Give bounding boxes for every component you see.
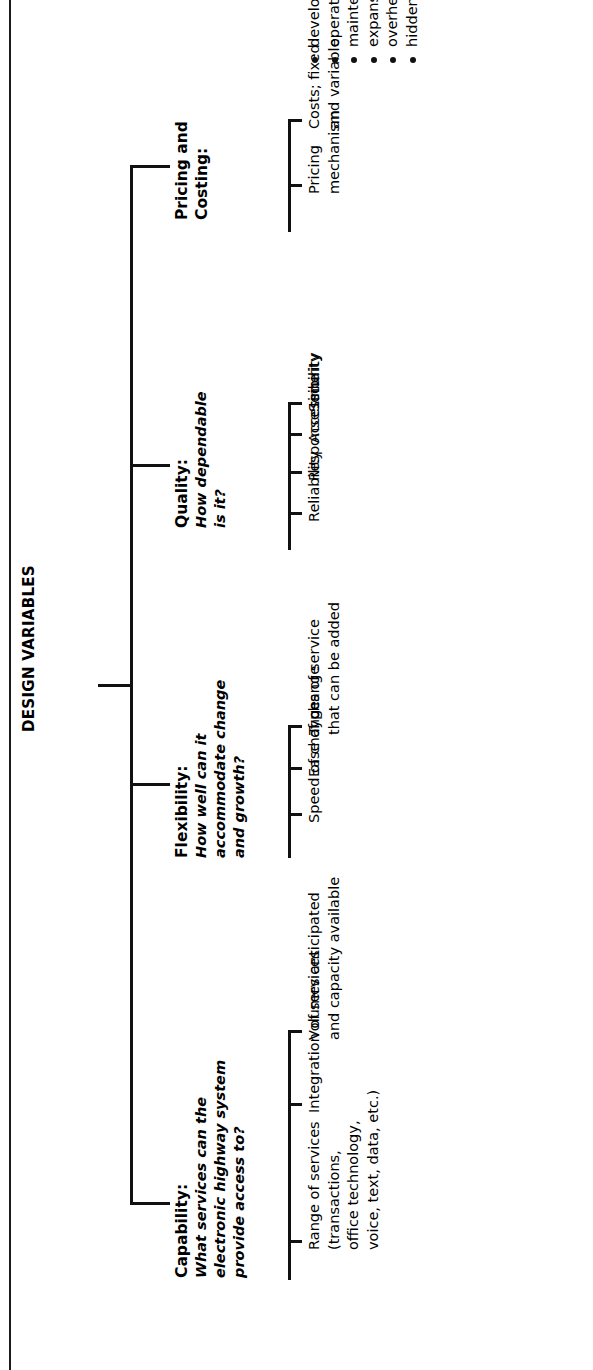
capability-tick-1 (288, 1240, 302, 1243)
rotated-diagram-canvas: DESIGN VARIABLES Capability: What servic… (0, 0, 593, 1370)
branch-capability: Capability: What services can the electr… (172, 1060, 249, 1278)
trunk-drop-flexibility (130, 783, 170, 786)
flexibility-tick-1 (288, 813, 302, 816)
capability-tick-2 (288, 1103, 302, 1106)
flexibility-subbar (288, 725, 291, 858)
branch-quality-name: Quality: (172, 391, 192, 528)
flexibility-subbar-endcap (288, 725, 302, 728)
quality-item-security: Security (305, 352, 325, 412)
capability-item-volumes-anticipated: Volumes anticipated and capacity availab… (305, 877, 344, 1040)
quality-tick-3 (288, 433, 302, 436)
bullet-expansion: expansion (364, 0, 384, 64)
quality-subbar (288, 402, 291, 550)
diagram-page: DESIGN VARIABLES Capability: What servic… (0, 0, 593, 1370)
branch-flexibility: Flexibility: How well can it accommodate… (172, 680, 249, 858)
flexibility-item-types-of-service: Types of service that can be added (305, 602, 344, 735)
branch-capability-name: Capability: (172, 1060, 192, 1278)
bullet-operations: operations (325, 0, 345, 64)
pricing-tick-1 (288, 184, 302, 187)
branch-pricing: Pricing and Costing: (172, 121, 212, 220)
trunk-cap-left (130, 1202, 170, 1205)
bullet-maintenance: maintenance (344, 0, 364, 64)
diagram-title: DESIGN VARIABLES (20, 565, 38, 732)
quality-tick-2 (288, 471, 302, 474)
quality-tick-1 (288, 512, 302, 515)
pricing-cost-bullet-list: development operations maintenance expan… (305, 0, 422, 64)
branch-quality: Quality: How dependable is it? (172, 391, 230, 528)
flexibility-tick-2 (288, 767, 302, 770)
capability-subbar-endcap (288, 1030, 302, 1033)
bullet-hidden: hidden (403, 0, 423, 64)
trunk-cap-right (130, 165, 170, 168)
bullet-overhead: overhead (383, 0, 403, 64)
bullet-development: development (305, 0, 325, 64)
branch-pricing-name: Pricing and Costing: (172, 121, 212, 220)
pricing-subbar-endcap (288, 119, 302, 122)
capability-item-range-of-services: Range of services (transactions, office … (305, 1090, 383, 1250)
trunk-root-stub (98, 684, 132, 687)
pricing-subbar (288, 119, 291, 232)
branch-quality-question: How dependable is it? (192, 391, 230, 528)
quality-subbar-endcap (288, 402, 302, 405)
trunk-drop-quality (130, 464, 170, 467)
branch-flexibility-question: How well can it accommodate change and g… (192, 680, 249, 858)
branch-flexibility-name: Flexibility: (172, 680, 192, 858)
branch-capability-question: What services can the electronic highway… (192, 1060, 249, 1278)
